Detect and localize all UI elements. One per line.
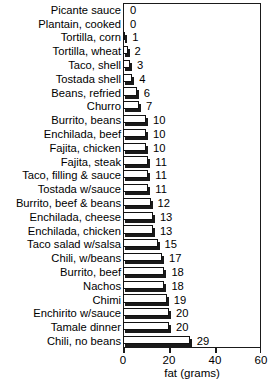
bar-row: Chimi19 (0, 293, 274, 307)
bar-body (123, 156, 148, 164)
x-axis-tick-label: 0 (120, 354, 126, 367)
bar-value-label: 20 (176, 321, 188, 333)
category-label: Burrito, beans (51, 114, 121, 126)
category-label: Picante sauce (51, 4, 121, 16)
category-label: Taco salad w/salsa (27, 238, 121, 250)
bar-value-label: 19 (174, 294, 186, 306)
bar-row: Burrito, beef18 (0, 265, 274, 279)
bar-value-label: 11 (155, 156, 167, 168)
x-axis: 0204060 (123, 348, 261, 364)
bar-body (123, 32, 125, 40)
bar-rows-container: Picante sauce0Plantain, cooked0Tortilla,… (0, 3, 274, 348)
bar-body (123, 281, 164, 289)
bar-value-label: 3 (137, 59, 143, 71)
x-axis-tick (169, 348, 171, 353)
bar-value-label: 13 (160, 225, 172, 237)
bar-value-label: 18 (171, 280, 183, 292)
x-axis-tick (123, 348, 125, 353)
bar-value-label: 10 (153, 114, 165, 126)
bar-value-label: 2 (135, 45, 141, 57)
bar (123, 86, 141, 100)
bar-value-label: 12 (158, 197, 170, 209)
bar (123, 320, 173, 334)
bar (123, 251, 166, 265)
bar-row: Picante sauce0 (0, 3, 274, 17)
bar-value-label: 11 (155, 183, 167, 195)
bar-value-label: 0 (130, 4, 136, 16)
bar-row: Tostada shell4 (0, 72, 274, 86)
x-axis-tick (260, 348, 262, 353)
category-label: Churro (87, 100, 121, 112)
bar-value-label: 17 (169, 252, 181, 264)
bar-value-label: 4 (139, 73, 145, 85)
bar-value-label: 18 (171, 266, 183, 278)
category-label: Tortilla, wheat (53, 45, 121, 57)
bar-row: Enchilada, beef10 (0, 127, 274, 141)
bar-body (123, 170, 148, 178)
bar-body (123, 74, 132, 82)
bar (123, 182, 152, 196)
bar (123, 141, 150, 155)
bar-row: Burrito, beef & beans12 (0, 196, 274, 210)
bar (123, 155, 152, 169)
bar-value-label: 10 (153, 142, 165, 154)
bar (123, 265, 168, 279)
bar-body (123, 336, 190, 344)
x-axis-title: fat (grams) (123, 367, 261, 380)
bar-row: Tortilla, wheat2 (0, 44, 274, 58)
category-label: Beans, refried (51, 87, 121, 99)
bar-row: Taco, shell3 (0, 58, 274, 72)
category-label: Fajita, chicken (49, 142, 121, 154)
bar (123, 127, 150, 141)
bar-row: Plantain, cooked0 (0, 17, 274, 31)
bar-row: Taco salad w/salsa15 (0, 238, 274, 252)
bar (123, 100, 143, 114)
x-axis-tick-label: 40 (209, 354, 222, 367)
bar-body (123, 308, 169, 316)
bar-value-label: 20 (176, 307, 188, 319)
bar-value-label: 10 (153, 128, 165, 140)
category-label: Nachos (83, 280, 121, 292)
category-label: Plantain, cooked (38, 18, 121, 30)
bar-shadow (125, 35, 127, 43)
bar (123, 196, 155, 210)
bar-body (123, 294, 167, 302)
category-label: Enchirito w/sauce (33, 307, 121, 319)
bar (123, 238, 162, 252)
bar-row: Taco, filling & sauce11 (0, 169, 274, 183)
bar-value-label: 15 (165, 238, 177, 250)
bar (123, 72, 136, 86)
bar-row: Fajita, chicken10 (0, 141, 274, 155)
bar-body (123, 101, 139, 109)
bar-body (123, 60, 130, 68)
bar-body (123, 267, 164, 275)
bar (123, 224, 157, 238)
bar-row: Beans, refried6 (0, 86, 274, 100)
bar-body (123, 225, 153, 233)
category-label: Taco, shell (68, 59, 121, 71)
bar (123, 293, 171, 307)
category-label: Chili, w/beans (51, 252, 121, 264)
category-label: Tamale dinner (51, 321, 121, 333)
category-label: Chimi (92, 294, 121, 306)
bar (123, 334, 194, 348)
bar-row: Chili, w/beans17 (0, 251, 274, 265)
bar (123, 58, 134, 72)
bar (123, 210, 157, 224)
category-label: Enchilada, beef (44, 128, 121, 140)
category-label: Tostada shell (56, 73, 121, 85)
bar-value-label: 0 (130, 18, 136, 30)
bar-value-label: 1 (132, 31, 138, 43)
bar (123, 44, 132, 58)
bar-body (123, 46, 128, 54)
category-label: Burrito, beef & beans (16, 197, 121, 209)
category-label: Taco, filling & sauce (22, 169, 121, 181)
category-label: Fajita, steak (61, 156, 121, 168)
bar-row: Tostada w/sauce11 (0, 182, 274, 196)
category-label: Tortilla, corn (61, 31, 121, 43)
bar-value-label: 29 (197, 335, 209, 347)
category-label: Tostada w/sauce (38, 183, 121, 195)
bar-row: Enchilada, cheese13 (0, 210, 274, 224)
bar-value-label: 7 (146, 100, 152, 112)
bar-row: Churro7 (0, 100, 274, 114)
